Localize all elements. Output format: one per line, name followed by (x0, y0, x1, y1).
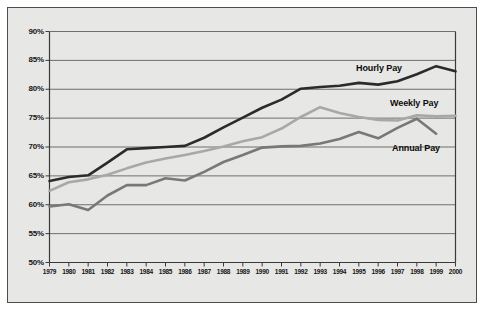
y-axis-label: 75% (14, 113, 44, 122)
y-axis-label: 50% (14, 258, 44, 267)
y-axis-label: 60% (14, 200, 44, 209)
y-axis-label: 65% (14, 171, 44, 180)
line-chart-plot (0, 0, 484, 310)
y-axis-label: 70% (14, 142, 44, 151)
chart-figure: 90%85%80%75%70%65%60%55%50% 197919801981… (0, 0, 484, 310)
y-axis-label: 90% (14, 27, 44, 36)
series-line-hourly-pay (50, 66, 456, 181)
y-axis-label: 80% (14, 84, 44, 93)
x-axis-label: 2000 (445, 268, 467, 275)
y-axis-label: 55% (14, 229, 44, 238)
series-label-weekly-pay: Weekly Pay (390, 98, 438, 108)
series-label-annual-pay: Annual Pay (392, 143, 440, 153)
series-label-hourly-pay: Hourly Pay (356, 63, 402, 73)
series-line-annual-pay (50, 119, 437, 210)
y-axis-label: 85% (14, 55, 44, 64)
data-series (50, 66, 456, 210)
